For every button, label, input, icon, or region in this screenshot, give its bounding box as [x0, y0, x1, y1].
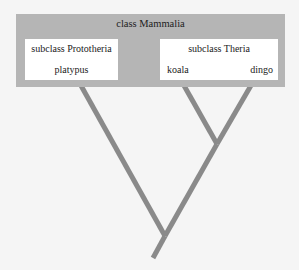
- subclass-prototheria-box: subclass Prototheria platypus: [25, 39, 118, 80]
- subclass-label: subclass Theria: [160, 43, 278, 54]
- class-mammalia-box: class Mammalia subclass Prototheria plat…: [16, 14, 285, 87]
- branch-koala: [182, 82, 217, 144]
- leaf-platypus: platypus: [25, 64, 118, 75]
- branch-root: [153, 236, 165, 258]
- leaf-koala: koala: [167, 64, 189, 75]
- subclass-theria-box: subclass Theria koala dingo: [160, 39, 278, 80]
- subclass-label: subclass Prototheria: [25, 43, 118, 54]
- branch-dingo: [217, 82, 253, 144]
- branch-platypus: [79, 82, 165, 236]
- leaf-dingo: dingo: [250, 64, 273, 75]
- class-label: class Mammalia: [16, 18, 285, 29]
- branch-theria: [165, 144, 217, 236]
